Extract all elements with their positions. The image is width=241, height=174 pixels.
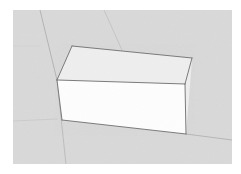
viewport-screenshot: [0, 0, 241, 174]
rectangular-box-solid[interactable]: [55, 44, 195, 136]
perspective-viewport[interactable]: [0, 0, 241, 174]
box-surface-noise: [55, 44, 195, 136]
